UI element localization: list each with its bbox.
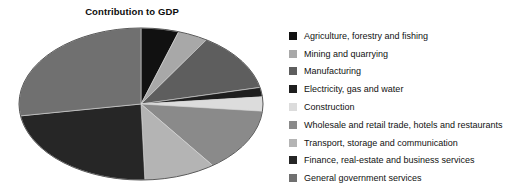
page-title: Contribution to GDP xyxy=(0,6,264,17)
legend-item[interactable]: Construction xyxy=(289,98,525,116)
pie-chart xyxy=(18,26,264,182)
legend-swatch-icon xyxy=(289,174,297,182)
legend-item[interactable]: Finance, real-estate and business servic… xyxy=(289,152,525,170)
legend-swatch-icon xyxy=(289,103,297,111)
legend-swatch-icon xyxy=(289,50,297,58)
legend-item-label: Finance, real-estate and business servic… xyxy=(304,155,475,165)
legend-item[interactable]: Electricity, gas and water xyxy=(289,80,525,98)
gdp-pie-chart-figure: Contribution to GDP Agriculture, forestr… xyxy=(0,0,528,193)
legend-item[interactable]: Agriculture, forestry and fishing xyxy=(289,27,525,45)
legend-item-label: Mining and quarrying xyxy=(304,49,388,59)
legend-swatch-icon xyxy=(289,121,297,129)
legend-swatch-icon xyxy=(289,85,297,93)
pie-slice[interactable] xyxy=(19,28,141,116)
legend-item[interactable]: General government services xyxy=(289,169,525,187)
legend-swatch-icon xyxy=(289,139,297,147)
legend-swatch-icon xyxy=(289,67,297,75)
pie-slice[interactable] xyxy=(21,104,145,180)
legend-item-label: Electricity, gas and water xyxy=(304,84,403,94)
legend-item-label: Agriculture, forestry and fishing xyxy=(304,31,428,41)
legend-item-label: Manufacturing xyxy=(304,66,361,76)
legend-item[interactable]: Manufacturing xyxy=(289,63,525,81)
pie-chart-svg xyxy=(18,26,264,182)
legend-item-label: Construction xyxy=(304,102,355,112)
legend-item[interactable]: Wholesale and retail trade, hotels and r… xyxy=(289,116,525,134)
legend: Agriculture, forestry and fishingMining … xyxy=(289,27,525,187)
legend-item-label: General government services xyxy=(304,173,422,183)
legend-swatch-icon xyxy=(289,32,297,40)
legend-item[interactable]: Transport, storage and communication xyxy=(289,134,525,152)
legend-swatch-icon xyxy=(289,156,297,164)
legend-item[interactable]: Mining and quarrying xyxy=(289,45,525,63)
legend-item-label: Transport, storage and communication xyxy=(304,138,458,148)
pie-slice-group xyxy=(19,28,263,180)
legend-item-label: Wholesale and retail trade, hotels and r… xyxy=(304,120,503,130)
